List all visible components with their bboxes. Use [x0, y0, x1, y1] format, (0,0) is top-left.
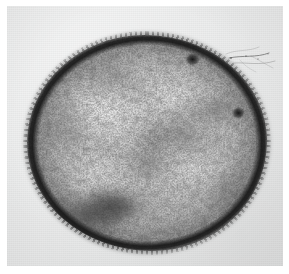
micrograph-viewport: [0, 0, 289, 274]
dark-granule-top-right: [185, 53, 200, 66]
micrograph-plate: [7, 6, 283, 266]
dense-patch-lower-left: [79, 187, 137, 229]
dense-patch-center: [131, 121, 177, 155]
dark-granule-right-edge: [232, 107, 245, 119]
bacterial-cell: [27, 35, 267, 251]
